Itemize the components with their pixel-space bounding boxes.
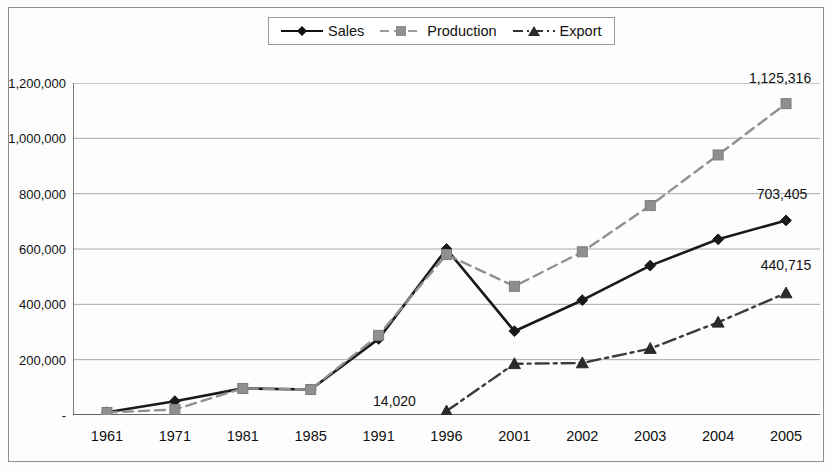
legend-label-sales: Sales xyxy=(328,23,364,39)
x-axis-tick-label: 1991 xyxy=(362,428,394,444)
marker-production xyxy=(509,281,519,291)
y-axis-tick-label: - xyxy=(62,408,66,423)
legend-label-production: Production xyxy=(427,23,496,39)
marker-production xyxy=(781,99,791,109)
legend-key-production-icon xyxy=(380,24,422,38)
plot-area xyxy=(73,83,820,415)
legend-item-sales: Sales xyxy=(281,23,364,39)
y-axis-tick-label: 200,000 xyxy=(19,352,66,367)
x-axis-tick-label: 2003 xyxy=(634,428,666,444)
x-axis-tick-label: 1971 xyxy=(159,428,191,444)
legend-key-sales-icon xyxy=(281,24,323,38)
marker-production xyxy=(102,408,112,415)
y-axis-tick-label: 1,200,000 xyxy=(8,76,66,91)
y-axis-tick-label: 800,000 xyxy=(19,186,66,201)
marker-sales xyxy=(713,234,724,245)
y-axis-tick-labels: 1,200,0001,000,000800,000600,000400,0002… xyxy=(0,0,66,470)
x-axis-tick-label: 1985 xyxy=(295,428,327,444)
marker-export xyxy=(441,405,453,415)
x-axis-tick-label: 2002 xyxy=(566,428,598,444)
x-axis-tick-label: 2001 xyxy=(498,428,530,444)
legend-key-export-icon xyxy=(513,24,555,38)
chart-legend: Sales Production Export xyxy=(268,17,615,45)
data-point-label: 1,125,316 xyxy=(749,70,811,86)
marker-export xyxy=(780,287,792,298)
data-point-label: 14,020 xyxy=(373,393,416,409)
marker-production xyxy=(713,150,723,160)
x-axis-tick-label: 2005 xyxy=(770,428,802,444)
marker-export xyxy=(644,343,656,354)
x-axis-tick-label: 1996 xyxy=(430,428,462,444)
chart-canvas xyxy=(73,83,820,415)
marker-sales xyxy=(645,260,656,271)
data-point-label: 703,405 xyxy=(757,186,808,202)
marker-production xyxy=(238,383,248,393)
chart-figure: Sales Production Export 1,200,0001,000,0… xyxy=(0,0,832,470)
y-axis-tick-label: 600,000 xyxy=(19,242,66,257)
data-point-label: 440,715 xyxy=(761,257,812,273)
legend-label-export: Export xyxy=(560,23,602,39)
marker-production xyxy=(645,201,655,211)
legend-item-export: Export xyxy=(513,23,602,39)
y-axis-tick-label: 1,000,000 xyxy=(8,131,66,146)
marker-production xyxy=(577,247,587,257)
x-axis-tick-label: 1981 xyxy=(227,428,259,444)
marker-production xyxy=(374,330,384,340)
marker-sales xyxy=(781,215,792,226)
x-axis-tick-label: 2004 xyxy=(702,428,734,444)
marker-production xyxy=(306,385,316,395)
marker-production xyxy=(170,404,180,414)
y-axis-tick-label: 400,000 xyxy=(19,297,66,312)
marker-production xyxy=(442,250,452,260)
x-axis-tick-label: 1961 xyxy=(91,428,123,444)
legend-item-production: Production xyxy=(380,23,496,39)
